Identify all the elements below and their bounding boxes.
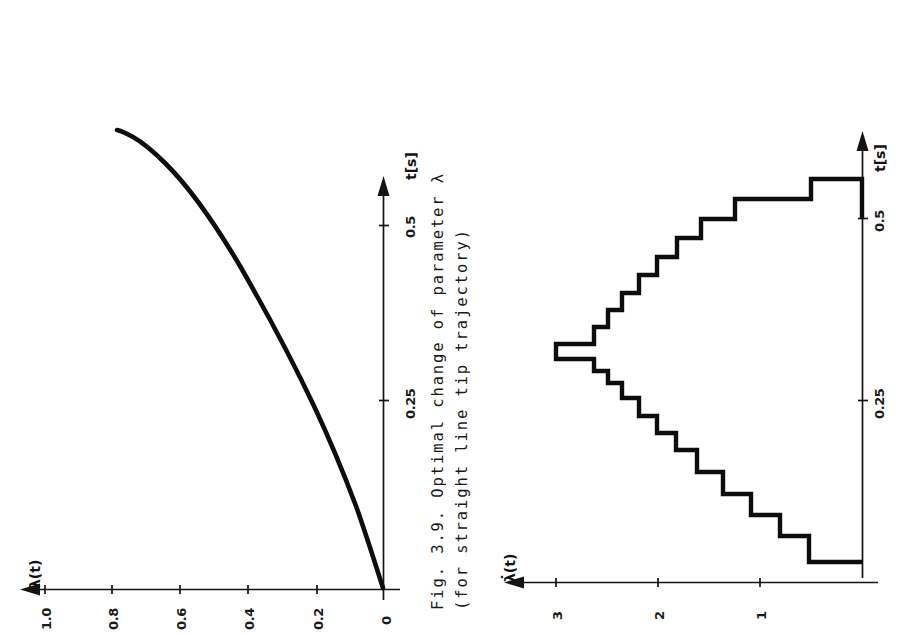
ytick-0-6: 0.6 (175, 608, 188, 630)
ytick-2: 2 (653, 611, 666, 620)
figure-caption-line-1: Fig. 3.9. Optimal change of parameter λ (431, 172, 447, 610)
ytick-3: 3 (551, 611, 564, 620)
lambda-rate-staircase (556, 179, 862, 562)
ytick-0-2: 0.2 (312, 608, 325, 630)
lambda-curve (117, 130, 383, 588)
xtick-0-5-right: 0.5 (873, 210, 886, 232)
figure-page: λ(t) 1.0 0.8 0.6 0.4 0.2 0 0.25 0.5 t[s]… (0, 0, 914, 634)
ytick-0: 0 (380, 616, 393, 625)
chart-lambda-rate (460, 0, 914, 634)
lambda-value-axis (20, 584, 400, 596)
axis-label-lambda-dot: λ̇(t) (503, 554, 517, 582)
xtick-0-5-left: 0.5 (404, 216, 417, 238)
lambda-rate-value-axis (504, 577, 878, 589)
ytick-1: 1 (755, 611, 768, 620)
ytick-0-8: 0.8 (107, 608, 120, 630)
xtick-0-25-left: 0.25 (404, 389, 417, 419)
axis-label-time-left: t[s] (404, 152, 418, 180)
axis-label-lambda: λ(t) (28, 560, 42, 588)
xtick-0-25-right: 0.25 (873, 389, 886, 419)
ytick-1-0: 1.0 (40, 608, 53, 630)
axis-label-time-right: t[s] (873, 144, 887, 172)
time-axis-left (378, 176, 390, 600)
ytick-0-4: 0.4 (243, 608, 256, 630)
chart-lambda-position (0, 0, 460, 634)
